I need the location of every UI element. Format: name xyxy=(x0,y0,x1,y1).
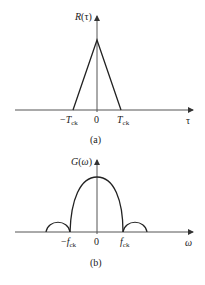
caption-b: (b) xyxy=(90,257,102,269)
tick-pos-b: fck xyxy=(120,236,130,249)
caption-a: (a) xyxy=(90,134,101,146)
figure-canvas: R(τ) τ −Tck 0 Tck (a) G(ω) ω −fck 0 fck … xyxy=(0,0,205,285)
tick-neg-a: −Tck xyxy=(60,114,78,127)
tick-pos-a: Tck xyxy=(117,114,130,127)
right-sidelobe xyxy=(123,222,147,232)
y-label-a: R(τ) xyxy=(74,11,92,23)
tick-neg-b: −fck xyxy=(61,236,77,249)
x-label-b: ω xyxy=(185,237,192,248)
tick-zero-a: 0 xyxy=(94,114,99,125)
y-label-b: G(ω) xyxy=(71,156,92,168)
tick-zero-b: 0 xyxy=(94,236,99,247)
left-sidelobe xyxy=(46,222,70,232)
power-spectrum-plot: G(ω) ω −fck 0 fck (b) xyxy=(15,156,193,269)
x-label-a: τ xyxy=(186,115,190,126)
autocorrelation-plot: R(τ) τ −Tck 0 Tck (a) xyxy=(15,11,193,146)
